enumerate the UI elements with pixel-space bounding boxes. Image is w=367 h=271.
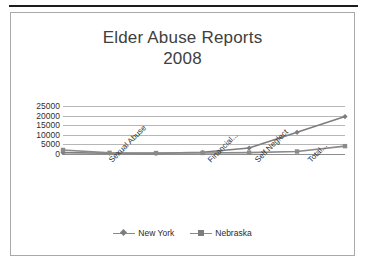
data-point-marker bbox=[61, 148, 65, 152]
series-line-new-york bbox=[63, 117, 345, 154]
chart-title-line2: 2008 bbox=[11, 48, 354, 69]
y-tick-5000: 5000 bbox=[14, 140, 60, 149]
data-point-marker bbox=[342, 114, 347, 119]
data-point-marker bbox=[247, 145, 252, 150]
square-marker-icon bbox=[190, 229, 212, 238]
legend-label-nebraska: Nebraska bbox=[215, 228, 251, 238]
y-axis-tick-labels: 25000 20000 15000 10000 5000 0 bbox=[11, 106, 60, 154]
legend-item-nebraska[interactable]: Nebraska bbox=[190, 228, 251, 238]
series-layer bbox=[63, 106, 345, 154]
y-tick-0: 0 bbox=[14, 150, 60, 159]
y-tick-25000: 25000 bbox=[14, 102, 60, 111]
series-markers-new-york bbox=[60, 114, 347, 156]
chart-frame: Elder Abuse Reports 2008 25000 20000 150… bbox=[10, 12, 355, 256]
chart-title-line1: Elder Abuse Reports bbox=[103, 28, 263, 47]
top-horizontal-rule bbox=[9, 5, 358, 7]
legend-label-new-york: New York bbox=[138, 228, 174, 238]
x-axis-category-labels: Sexual Abuse Financial... Self Neglect T… bbox=[63, 154, 345, 224]
data-point-marker bbox=[343, 144, 347, 148]
chart-title: Elder Abuse Reports 2008 bbox=[11, 27, 354, 69]
data-point-marker bbox=[294, 130, 299, 135]
diamond-marker-icon bbox=[113, 229, 135, 238]
chart-page: Elder Abuse Reports 2008 25000 20000 150… bbox=[0, 0, 367, 271]
legend-item-new-york[interactable]: New York bbox=[113, 228, 174, 238]
y-tick-15000: 15000 bbox=[14, 121, 60, 130]
chart-legend: New York Nebraska bbox=[11, 228, 354, 238]
